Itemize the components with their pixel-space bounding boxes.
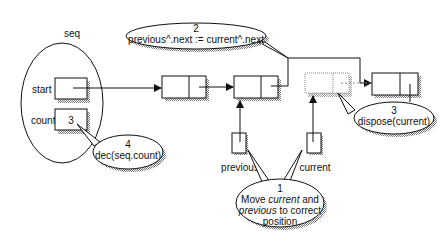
count-value: 3 <box>68 115 74 126</box>
start-label: start <box>32 84 52 95</box>
svg-text:dispose(current): dispose(current) <box>358 116 430 127</box>
svg-text:previous^.next := current^.nex: previous^.next := current^.next <box>128 34 264 45</box>
callout-step-3: 3 dispose(current) <box>338 93 437 137</box>
svg-text:previous to correct: previous to correct <box>238 205 321 216</box>
list-node-4 <box>372 73 421 98</box>
previous-label: previous <box>221 162 259 173</box>
current-pointer: current <box>299 96 330 173</box>
svg-text:2: 2 <box>193 23 199 34</box>
count-label: count <box>31 115 56 126</box>
linked-list-delete-diagram: seq start count 3 <box>0 0 443 244</box>
svg-text:Move current and: Move current and <box>241 194 319 205</box>
callout-step-2: 2 previous^.next := current^.next <box>126 23 288 58</box>
svg-text:position: position <box>263 216 297 227</box>
svg-text:1: 1 <box>277 183 283 194</box>
list-node-disposed <box>305 73 352 97</box>
svg-text:4: 4 <box>125 139 131 150</box>
list-node-1 <box>162 76 209 101</box>
seq-record: seq start count 3 <box>21 28 103 163</box>
list-node-2 <box>234 76 281 101</box>
svg-text:3: 3 <box>391 105 397 116</box>
seq-label: seq <box>64 28 80 39</box>
current-label: current <box>299 162 330 173</box>
svg-text:dec(seq.count): dec(seq.count) <box>95 150 161 161</box>
